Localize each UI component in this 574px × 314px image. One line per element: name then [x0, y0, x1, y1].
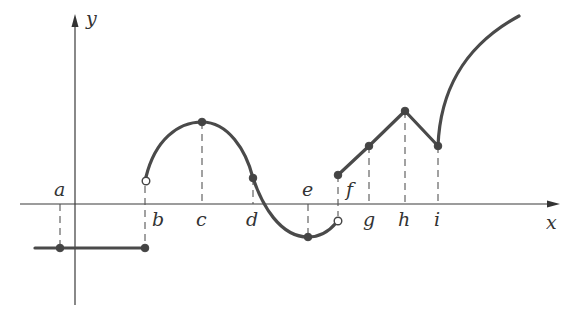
- label-i: i: [434, 208, 440, 230]
- point-filled-g: [365, 142, 373, 150]
- y-axis-label: y: [85, 7, 97, 29]
- label-a: a: [54, 178, 65, 200]
- point-filled-f: [334, 171, 342, 179]
- curve-points: [56, 107, 442, 252]
- point-filled-a: [56, 244, 64, 252]
- function-graph: y x a b: [0, 0, 574, 314]
- point-filled-h: [401, 107, 409, 115]
- label-g: g: [363, 208, 375, 230]
- point-filled-c: [198, 118, 206, 126]
- label-b: b: [152, 208, 164, 230]
- axes: y x: [20, 7, 560, 305]
- point-filled-e: [304, 233, 312, 241]
- function-curve: [35, 16, 519, 248]
- point-filled-b: [141, 244, 149, 252]
- label-c: c: [196, 208, 207, 230]
- curve-segment-concave: [438, 16, 519, 146]
- x-axis-label: x: [546, 211, 557, 233]
- label-h: h: [398, 208, 410, 230]
- x-axis-arrow-icon: [547, 201, 560, 208]
- point-open-f: [334, 217, 342, 225]
- point-filled-i: [434, 142, 442, 150]
- point-open-b: [142, 177, 150, 185]
- label-e: e: [302, 178, 313, 200]
- y-axis-arrow-icon: [72, 14, 79, 27]
- curve-segment-linear: [338, 111, 438, 175]
- point-filled-d: [249, 174, 257, 182]
- label-d: d: [246, 208, 258, 230]
- label-f: f: [344, 178, 356, 200]
